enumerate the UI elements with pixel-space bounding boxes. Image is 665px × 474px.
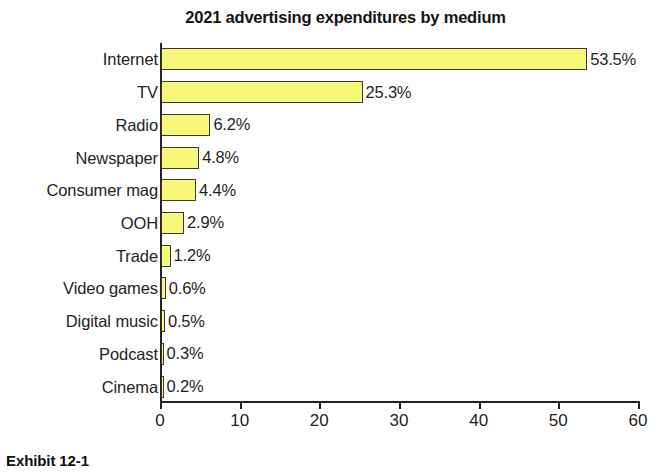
bar-category-label: Newspaper — [75, 148, 158, 167]
x-tick — [319, 401, 321, 409]
bar-row: Trade1.2% — [0, 239, 665, 272]
bar-track: 4.4% — [161, 179, 236, 201]
bar-value-label: 6.2% — [213, 115, 250, 134]
x-tick — [558, 401, 560, 409]
x-tick — [638, 401, 640, 409]
bar-track: 2.9% — [161, 212, 224, 234]
bar — [161, 277, 166, 299]
x-tick-label: 0 — [155, 411, 164, 431]
exhibit-caption: Exhibit 12-1 — [6, 452, 89, 469]
bar-value-label: 0.5% — [168, 312, 205, 331]
bar — [161, 147, 199, 169]
advertising-expenditures-bar-chart: 2021 advertising expenditures by medium … — [0, 0, 665, 474]
bar — [161, 310, 165, 332]
bar — [161, 81, 363, 103]
bar-value-label: 53.5% — [590, 50, 636, 69]
bar — [161, 212, 184, 234]
bar-row: Digital music0.5% — [0, 305, 665, 338]
x-tick — [399, 401, 401, 409]
x-tick-label: 60 — [629, 411, 648, 431]
bar-track: 0.6% — [161, 277, 206, 299]
x-tick — [479, 401, 481, 409]
bar-row: Internet53.5% — [0, 43, 665, 76]
bar — [161, 114, 210, 136]
bar-value-label: 0.3% — [167, 344, 204, 363]
bar-track: 0.5% — [161, 310, 205, 332]
bar-category-label: Podcast — [99, 344, 158, 363]
bar-row: Radio6.2% — [0, 108, 665, 141]
bar-track: 0.3% — [161, 343, 203, 365]
bar-category-label: Radio — [115, 115, 158, 134]
bar-category-label: Video games — [63, 279, 158, 298]
x-tick-label: 40 — [469, 411, 488, 431]
bar-value-label: 2.9% — [187, 213, 224, 232]
bar-track: 0.2% — [161, 376, 203, 398]
bar-category-label: OOH — [121, 213, 158, 232]
x-tick-label: 30 — [390, 411, 409, 431]
x-tick-label: 10 — [230, 411, 249, 431]
bar-category-label: Cinema — [102, 377, 158, 396]
bar-track: 4.8% — [161, 147, 239, 169]
bar-row: Video games0.6% — [0, 272, 665, 305]
bar-value-label: 1.2% — [174, 246, 211, 265]
bar-track: 25.3% — [161, 81, 411, 103]
bar-row: TV25.3% — [0, 76, 665, 109]
bar-track: 53.5% — [161, 48, 636, 70]
bar-row: Consumer mag4.4% — [0, 174, 665, 207]
x-tick-label: 20 — [310, 411, 329, 431]
x-axis: 0102030405060 — [160, 401, 638, 402]
bar-row: Cinema0.2% — [0, 370, 665, 403]
plot-area: Internet53.5%TV25.3%Radio6.2%Newspaper4.… — [0, 43, 665, 403]
bar — [161, 48, 587, 70]
chart-title: 2021 advertising expenditures by medium — [0, 8, 665, 27]
bar-row: OOH2.9% — [0, 207, 665, 240]
bar-category-label: Trade — [116, 246, 158, 265]
bar-row: Podcast0.3% — [0, 338, 665, 371]
x-tick — [160, 401, 162, 409]
bar-row: Newspaper4.8% — [0, 141, 665, 174]
bar — [161, 343, 164, 365]
bar — [161, 245, 171, 267]
x-tick — [240, 401, 242, 409]
bar-value-label: 25.3% — [366, 83, 412, 102]
bar-track: 1.2% — [161, 245, 210, 267]
bar-category-label: Internet — [103, 50, 158, 69]
bar — [161, 376, 164, 398]
bar-track: 6.2% — [161, 114, 250, 136]
bar-category-label: TV — [137, 83, 158, 102]
bar-value-label: 4.8% — [202, 148, 239, 167]
bar-category-label: Digital music — [66, 312, 158, 331]
bar — [161, 179, 196, 201]
x-tick-label: 50 — [549, 411, 568, 431]
bar-value-label: 0.2% — [167, 377, 204, 396]
bar-category-label: Consumer mag — [46, 181, 158, 200]
bar-value-label: 0.6% — [169, 279, 206, 298]
bar-value-label: 4.4% — [199, 181, 236, 200]
